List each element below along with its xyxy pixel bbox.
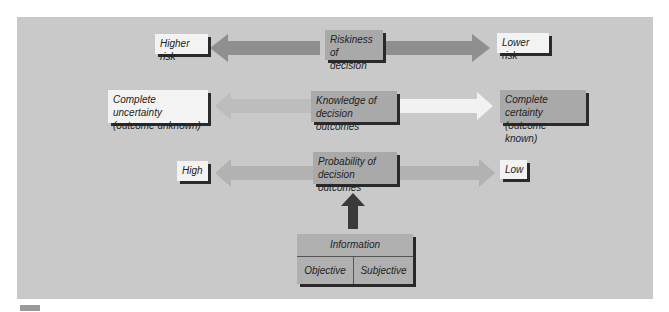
right-arrow-icon: [380, 34, 490, 62]
low-label: Low: [500, 160, 527, 179]
information-table: Information Objective Subjective: [297, 234, 413, 284]
higher-risk-label: Higher risk: [155, 34, 208, 54]
high-label: High: [177, 161, 208, 181]
probability-of-decision-outcomes-box: Probability of decision outcomes: [313, 152, 397, 184]
knowledge-of-decision-outcomes-box: Knowledge of decision outcomes: [311, 91, 397, 122]
right-arrow-icon: [395, 92, 493, 120]
objective-cell: Objective: [297, 257, 354, 284]
complete-uncertainty-label: Complete uncertainty (outcome unknown): [108, 90, 208, 123]
up-arrow-icon: [341, 193, 365, 229]
riskiness-of-decision-box: Riskiness of decision: [325, 30, 383, 60]
figure-marker: [20, 305, 40, 311]
complete-certainty-label: Complete certainty (outcome known): [500, 90, 586, 123]
subjective-cell: Subjective: [354, 257, 413, 284]
information-title: Information: [297, 234, 413, 257]
lower-risk-label: Lower risk: [497, 33, 549, 53]
left-arrow-icon: [215, 159, 315, 187]
left-arrow-icon: [210, 34, 320, 62]
information-cells: Objective Subjective: [297, 257, 413, 284]
right-arrow-icon: [395, 159, 495, 187]
left-arrow-icon: [215, 92, 311, 120]
